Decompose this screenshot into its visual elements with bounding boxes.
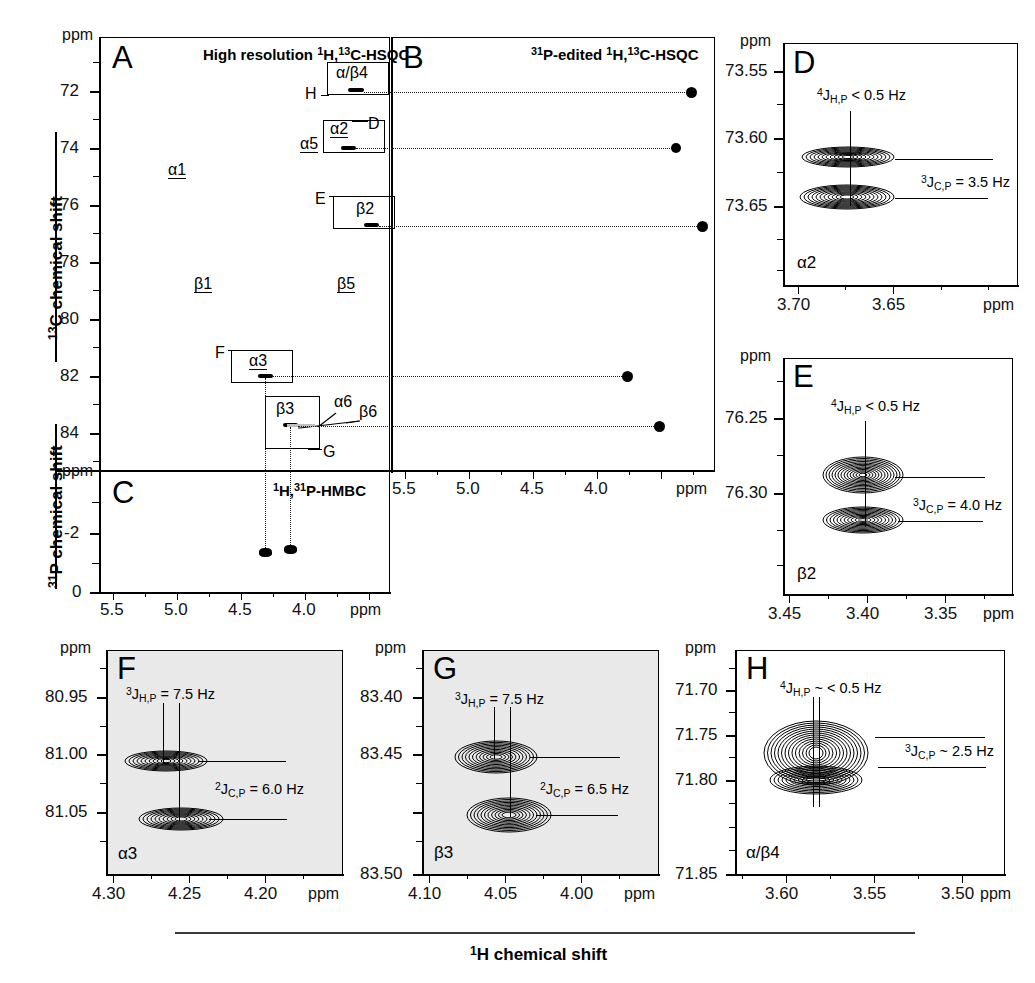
panel-A-title-sup2: 13 xyxy=(338,45,350,57)
corr-dotline-b3 xyxy=(298,426,658,427)
corr-peak-a3 xyxy=(622,371,633,382)
c13-axis-rule xyxy=(55,132,57,362)
panel-A-letter: A xyxy=(112,42,133,73)
bottom-axis-sup: 1 xyxy=(470,944,477,958)
corr-peak-b2 xyxy=(697,221,708,232)
callout-F: F xyxy=(215,344,225,362)
panel-C-title-sup2: 31 xyxy=(294,481,306,493)
panelC-ytick-0: 0 xyxy=(72,582,81,602)
peak-blob-beta2 xyxy=(364,223,379,227)
panel-C-letter: C xyxy=(112,477,134,508)
bottom-axis-rule xyxy=(175,932,915,934)
ytick-82: 82 xyxy=(60,366,79,386)
panel-A-title-pre: High resolution xyxy=(203,46,317,63)
panelC-xaxis xyxy=(99,592,391,594)
ytick-78: 78 xyxy=(60,252,79,272)
corr-dotline-a2 xyxy=(356,148,674,149)
panel-D-contours xyxy=(735,25,1035,320)
panel-G-contours xyxy=(370,625,680,920)
axis-label-p31: 31P chemical shift xyxy=(20,420,50,590)
peak-label-alpha3: α3 xyxy=(249,352,267,370)
corr-dotvert-b3 xyxy=(290,427,291,553)
panelB-xtick-5p5: 5.5 xyxy=(392,479,416,499)
panelB-xaxis-ppm: ppm xyxy=(676,480,707,498)
callout-H: H xyxy=(305,85,317,103)
panel-H-contours xyxy=(680,625,1010,920)
panel-B-title-rest: C-HSQC xyxy=(639,46,698,63)
panelC-xtick-5p5: 5.5 xyxy=(100,600,124,620)
panelA-yaxis-ppm: ppm xyxy=(62,26,93,44)
panelC-xtick-4p0: 4.0 xyxy=(292,600,316,620)
ytick-72: 72 xyxy=(60,81,79,101)
corr-dotline-b2 xyxy=(379,226,701,227)
peak-label-beta1: β1 xyxy=(194,275,212,293)
corr-dotvert-a3 xyxy=(265,378,266,554)
bottom-axis-text: H chemical shift xyxy=(477,945,607,964)
panel-B-title: 31P-edited 1H,13C-HSQC xyxy=(531,45,699,63)
panel-A-title: High resolution 1H,13C-HSQC xyxy=(203,45,409,63)
panelC-xtick-4p5: 4.5 xyxy=(228,600,252,620)
panel-B-letter: B xyxy=(403,42,424,73)
panelB-xtick-4p5: 4.5 xyxy=(520,479,544,499)
panelC-yaxis-ppm: ppm xyxy=(62,462,93,480)
peak-label-beta3: β3 xyxy=(276,400,294,418)
callout-G: G xyxy=(323,443,335,461)
panelC-xaxis-ppm: ppm xyxy=(350,601,381,619)
panel-C-title: 1H,31P-HMBC xyxy=(273,481,366,499)
panelB-xtick-4p0: 4.0 xyxy=(584,479,608,499)
ytick-84: 84 xyxy=(60,423,79,443)
panel-B-title-pre: P-edited xyxy=(543,46,606,63)
corr-dotline-ab4 xyxy=(364,92,689,93)
panelC-ytick-minus2: -2 xyxy=(64,523,79,543)
peak-label-beta2: β2 xyxy=(356,200,374,218)
bottom-axis-label: 1H chemical shift xyxy=(470,944,607,965)
panel-C-title-h: H, xyxy=(279,482,294,499)
p31-axis-rule xyxy=(55,424,57,589)
panel-D: ppm D 73.55 73.60 73.65 3.70 3.65 ppm 4J… xyxy=(735,25,1035,320)
nmr-figure: 13C chemical shift 31P chemical shift pp… xyxy=(0,0,1035,983)
callout-E: E xyxy=(315,190,326,208)
panelC-xtick-5p0: 5.0 xyxy=(164,600,188,620)
panelC-right-border xyxy=(389,470,390,594)
callout-D: D xyxy=(368,115,380,133)
panelC-peak-a3 xyxy=(259,548,272,557)
panel-H: ppm H 71.70 71.75 71.80 71.85 3.60 3.55 … xyxy=(680,625,1010,920)
ytick-80: 80 xyxy=(60,309,79,329)
panelC-peak-b3 xyxy=(284,545,297,554)
panel-B-title-sup3: 13 xyxy=(627,45,639,57)
panel-B-frame xyxy=(392,37,715,470)
panel-E-contours xyxy=(735,325,1035,620)
corr-peak-a2 xyxy=(671,143,681,153)
panelAB-xaxis xyxy=(57,470,715,472)
panelC-yaxis xyxy=(99,470,101,594)
alpha6-beta6-leader-lines xyxy=(300,405,390,435)
c13-superscript: 13 xyxy=(46,326,60,340)
panel-B-title-h: H, xyxy=(612,46,627,63)
panel-F: ppm F 80.95 81.00 81.05 4.30 4.25 4.20 p… xyxy=(60,625,370,920)
panel-G: ppm G 83.40 83.45 83.50 4.10 4.05 4.00 p… xyxy=(370,625,680,920)
peak-label-alpha1: α1 xyxy=(168,161,186,179)
corr-peak-ab4 xyxy=(686,87,697,98)
corr-dotline-a3 xyxy=(273,376,626,377)
corr-peak-b3 xyxy=(654,421,665,432)
panel-E: ppm E 76.25 76.30 3.45 3.40 3.35 ppm 4JH… xyxy=(735,325,1035,620)
p31-superscript: 31 xyxy=(46,574,60,588)
panel-B-title-sup1: 31 xyxy=(531,45,543,57)
ytick-76: 76 xyxy=(60,195,79,215)
peak-label-alpha2: α2 xyxy=(330,120,348,138)
panel-C-title-rest: P-HMBC xyxy=(306,482,366,499)
panel-A-title-h: H, xyxy=(323,46,338,63)
peak-label-alpha5: α5 xyxy=(300,135,318,153)
peak-label-alphabeta4: α/β4 xyxy=(336,64,368,82)
peak-blob-alpha2 xyxy=(341,146,356,150)
peak-blob-alphabeta4 xyxy=(348,88,364,92)
peak-label-beta5: β5 xyxy=(337,275,355,293)
ytick-74: 74 xyxy=(60,138,79,158)
panelB-xtick-5p0: 5.0 xyxy=(456,479,480,499)
panel-F-contours xyxy=(60,625,370,920)
axis-label-c13: 13C chemical shift xyxy=(20,140,50,340)
